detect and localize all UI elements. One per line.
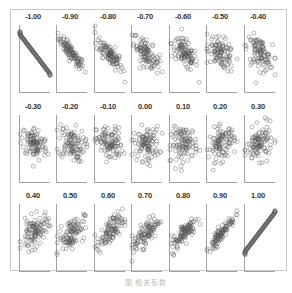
scatter-panel: -0.60 <box>166 12 200 96</box>
scatter-panel: 0.70 <box>128 191 162 275</box>
panel-correlation-label: -0.60 <box>166 12 200 21</box>
scatter-panel: -0.50 <box>203 12 237 96</box>
panel-correlation-label: 0.80 <box>166 191 200 200</box>
scatter-panel: 0.90 <box>203 191 237 275</box>
scatter-plot-area <box>131 204 162 272</box>
scatter-panel: 0.50 <box>53 191 87 275</box>
panel-correlation-label: 0.10 <box>166 102 200 111</box>
scatter-plot-area <box>244 25 275 93</box>
panel-correlation-label: 0.50 <box>53 191 87 200</box>
scatter-plot-area <box>19 204 50 272</box>
panel-correlation-label: -0.20 <box>53 102 87 111</box>
scatter-panel: 1.00 <box>241 191 275 275</box>
panel-correlation-label: -0.90 <box>53 12 87 21</box>
panel-correlation-label: -0.10 <box>91 102 125 111</box>
panel-correlation-label: 0.20 <box>203 102 237 111</box>
scatter-panel: -0.20 <box>53 102 87 186</box>
scatter-plot-area <box>131 115 162 183</box>
scatter-panel: -0.80 <box>91 12 125 96</box>
scatter-plot-area <box>19 25 50 93</box>
figure-caption: 图 相关系数 <box>0 277 292 287</box>
scatter-panel: -0.70 <box>128 12 162 96</box>
scatter-plot-area <box>244 204 275 272</box>
scatter-panel: -0.30 <box>16 102 50 186</box>
scatter-plot-area <box>56 25 87 93</box>
scatter-plot-area <box>94 25 125 93</box>
axis-lines <box>245 204 276 272</box>
panel-correlation-label: -0.40 <box>241 12 275 21</box>
panel-correlation-label: 0.60 <box>91 191 125 200</box>
scatter-plot-area <box>56 115 87 183</box>
panel-correlation-label: -0.30 <box>16 102 50 111</box>
scatter-panel: 0.20 <box>203 102 237 186</box>
scatter-panel: 0.60 <box>91 191 125 275</box>
scatter-plot-area <box>169 25 200 93</box>
scatter-plot-area <box>94 115 125 183</box>
panel-correlation-label: 0.40 <box>16 191 50 200</box>
scatter-plot-area <box>206 115 237 183</box>
scatter-plot-area <box>19 115 50 183</box>
scatter-plot-area <box>56 204 87 272</box>
panel-correlation-label: 0.90 <box>203 191 237 200</box>
scatter-panel: -0.10 <box>91 102 125 186</box>
axis-lines <box>20 25 51 93</box>
scatter-plot-area <box>131 25 162 93</box>
scatter-plot-area <box>169 204 200 272</box>
panel-correlation-label: 0.00 <box>128 102 162 111</box>
scatter-plot-area <box>169 115 200 183</box>
panel-correlation-label: -1.00 <box>16 12 50 21</box>
scatter-panel: -0.40 <box>241 12 275 96</box>
panel-correlation-label: 0.70 <box>128 191 162 200</box>
panel-correlation-label: 0.30 <box>241 102 275 111</box>
scatter-plot-area <box>206 25 237 93</box>
panel-correlation-label: -0.70 <box>128 12 162 21</box>
scatter-plot-area <box>94 204 125 272</box>
scatter-panel: 0.30 <box>241 102 275 186</box>
scatter-plot-area <box>206 204 237 272</box>
scatter-panel: -1.00 <box>16 12 50 96</box>
panel-correlation-label: 1.00 <box>241 191 275 200</box>
scatter-panel: 0.80 <box>166 191 200 275</box>
scatter-panel: 0.10 <box>166 102 200 186</box>
scatter-panel: 0.40 <box>16 191 50 275</box>
scatter-panel: -0.90 <box>53 12 87 96</box>
panel-correlation-label: -0.80 <box>91 12 125 21</box>
scatter-plot-area <box>244 115 275 183</box>
scatter-panel: 0.00 <box>128 102 162 186</box>
panel-correlation-label: -0.50 <box>203 12 237 21</box>
